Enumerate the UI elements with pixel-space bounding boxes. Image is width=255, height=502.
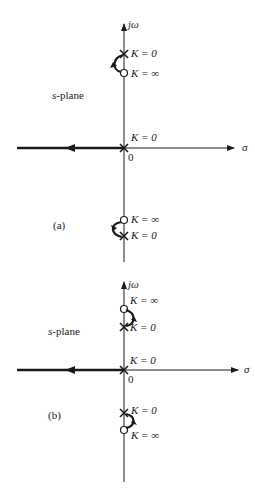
zero-lower-a [121, 217, 128, 224]
upper-pole-label-b: K = 0 [130, 322, 156, 333]
locus-arrow-a [65, 144, 75, 152]
zero-upper-a [121, 70, 128, 77]
origin-label-b: 0 [128, 374, 134, 385]
imag-axis-label-b: jω [128, 279, 139, 290]
caption-b: (b) [48, 410, 61, 421]
lower-pole-label-b: K = 0 [131, 405, 157, 416]
origin-k-label-b: K = 0 [130, 355, 156, 366]
root-locus-diagram [0, 0, 255, 502]
lower-pole-label-a: K = 0 [131, 230, 157, 241]
locus-arc-upper-a [114, 55, 123, 72]
origin-k-label-a: K = 0 [131, 132, 157, 143]
lower-zero-label-b: K = ∞ [131, 430, 159, 441]
plane-label-a: ss-plane-plane [52, 90, 84, 101]
origin-label-a: 0 [128, 152, 134, 163]
lower-zero-label-a: K = ∞ [131, 214, 159, 225]
real-axis-label-b: σ [244, 364, 249, 375]
upper-zero-label-a: K = ∞ [131, 68, 159, 79]
plane-label-b: s-plane [48, 326, 80, 337]
upper-pole-label-a: K = 0 [131, 48, 157, 59]
panel-a [17, 24, 234, 262]
real-axis-label-a: σ [242, 142, 247, 153]
upper-zero-label-b: K = ∞ [130, 295, 158, 306]
locus-arrow-b [65, 366, 75, 374]
caption-a: (a) [53, 220, 65, 231]
imag-axis-label-a: jω [128, 19, 139, 30]
